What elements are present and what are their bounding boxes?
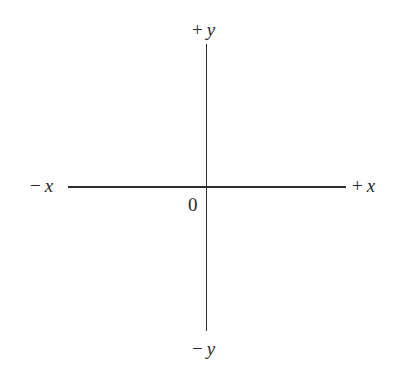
negative-y-var: y — [207, 338, 215, 359]
y-axis-line — [206, 44, 207, 331]
negative-x-sign: − — [30, 175, 41, 196]
positive-y-var: y — [207, 19, 215, 40]
negative-y-label: −y — [192, 339, 215, 358]
positive-x-sign: + — [352, 175, 363, 196]
positive-y-sign: + — [192, 19, 203, 40]
negative-x-var: x — [45, 175, 53, 196]
positive-x-var: x — [367, 175, 375, 196]
positive-x-label: +x — [352, 176, 375, 195]
origin-label: 0 — [188, 195, 198, 214]
negative-y-sign: − — [192, 338, 203, 359]
positive-y-label: +y — [192, 20, 215, 39]
negative-x-label: −x — [30, 176, 53, 195]
